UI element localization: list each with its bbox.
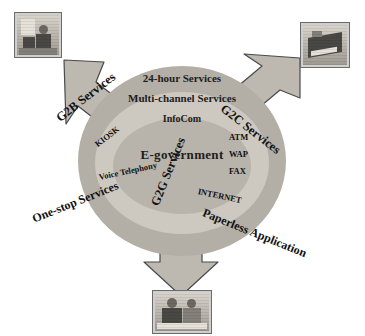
channel-wap: WAP [229,149,248,159]
photo-citizen-office [14,12,62,58]
photo-business [300,22,350,68]
photo-government [152,290,212,334]
diagram-canvas: 24-hour Services Multi-channel Services … [0,0,365,336]
label-multi-channel-services: Multi-channel Services [78,92,286,104]
channel-fax: FAX [229,166,246,176]
